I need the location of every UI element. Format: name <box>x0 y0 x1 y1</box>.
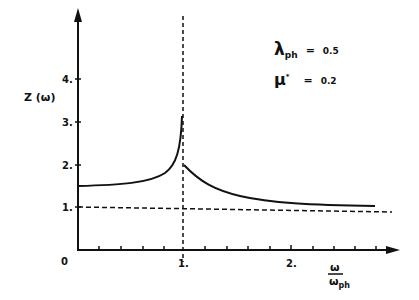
y-tick-label-1: 1. <box>62 202 73 213</box>
y-tick-label-3: 3. <box>62 117 73 128</box>
y-axis-arrow-icon <box>74 8 82 22</box>
z-omega-curve-right <box>184 165 375 206</box>
lambda-annotation: λph=0.5 <box>274 39 339 60</box>
origin-label: 0 <box>61 256 68 267</box>
z-equals-one-line <box>78 207 392 212</box>
z-omega-curve-left <box>78 116 182 186</box>
x-axis-arrow-icon <box>386 246 400 254</box>
x-tick-label-1: 1. <box>178 258 189 269</box>
x-axis-label-denominator: ωph <box>329 275 350 290</box>
mu-annotation: μ*=0.2 <box>274 70 337 89</box>
x-axis-label-numerator: ω <box>330 261 340 274</box>
x-tick-label-2: 2. <box>286 258 297 269</box>
y-tick-label-2: 2. <box>62 160 73 171</box>
y-tick-label-4: 4. <box>62 74 73 85</box>
chart-canvas: 4. 3. 2. 1. Z (ω) 0 1. 2. ω ωph λph=0.5 … <box>0 0 419 300</box>
y-axis-label: Z (ω) <box>24 91 55 104</box>
